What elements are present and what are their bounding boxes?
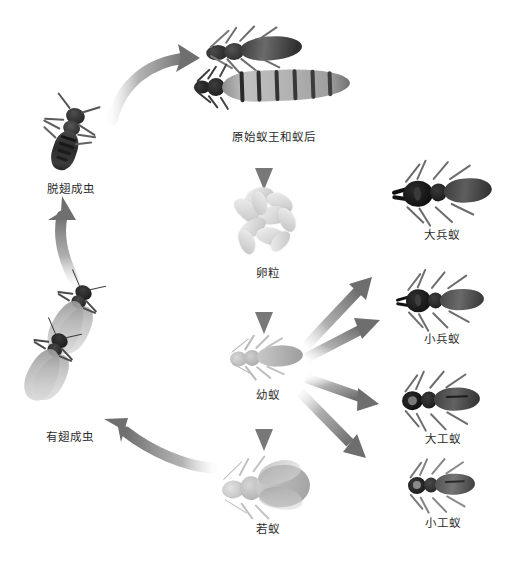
node-label-eggs: 卵粒 [222, 264, 314, 280]
winged-termite-pair-icon [10, 286, 130, 426]
minor-worker-termite-icon [384, 458, 502, 512]
termite-life-cycle-diagram: 原始蚁王和蚁后 卵粒 [0, 0, 520, 564]
node-alate-adult: 有翅成虫 [10, 286, 130, 444]
node-larva: 幼蚁 [214, 330, 322, 402]
termite-king-queen-pair-icon [186, 28, 361, 126]
node-label-alate-adult: 有翅成虫 [10, 428, 130, 444]
arrow-king-queen-to-eggs [255, 142, 273, 190]
major-soldier-termite-icon [378, 162, 506, 224]
node-label-nymph: 若蚁 [208, 520, 328, 536]
node-label-minor-worker: 小工蚁 [384, 514, 502, 530]
node-minor-worker: 小工蚁 [384, 458, 502, 530]
node-label-minor-soldier: 小兵蚁 [380, 330, 504, 346]
node-nymph: 若蚁 [208, 452, 328, 536]
node-dealate-adult: 脱翅成虫 [16, 104, 126, 196]
node-minor-soldier: 小兵蚁 [380, 272, 504, 346]
node-major-worker: 大工蚁 [382, 372, 504, 446]
dealate-termite-icon [16, 104, 126, 178]
node-eggs: 卵粒 [222, 186, 314, 280]
arrow-eggs-to-larva [255, 285, 273, 334]
arrow-larva-to-nymph [255, 405, 273, 451]
major-worker-termite-icon [382, 372, 504, 428]
node-label-primary-king-queen: 原始蚁王和蚁后 [186, 128, 361, 144]
node-primary-king-queen: 原始蚁王和蚁后 [186, 28, 361, 144]
node-label-dealate-adult: 脱翅成虫 [16, 180, 126, 196]
termite-nymph-icon [208, 452, 328, 518]
minor-soldier-termite-icon [380, 272, 504, 328]
node-label-major-worker: 大工蚁 [382, 430, 504, 446]
node-label-major-soldier: 大兵蚁 [378, 226, 506, 242]
node-major-soldier: 大兵蚁 [378, 162, 506, 242]
node-label-larva: 幼蚁 [214, 386, 322, 402]
termite-egg-cluster-icon [222, 186, 314, 262]
termite-larva-icon [214, 330, 322, 384]
